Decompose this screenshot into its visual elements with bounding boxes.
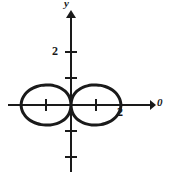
y-axis-tick-label-2: 2: [52, 45, 58, 57]
y-axis-arrowhead: [66, 10, 76, 18]
x-axis-label: 0: [157, 97, 163, 108]
x-axis-arrowhead: [150, 100, 156, 110]
y-axis-label: y: [64, 0, 69, 9]
x-axis-tick-label-2: 2: [117, 106, 123, 118]
plot-canvas: [0, 0, 170, 177]
lemniscate-figure: y 0 2 2: [0, 0, 170, 177]
